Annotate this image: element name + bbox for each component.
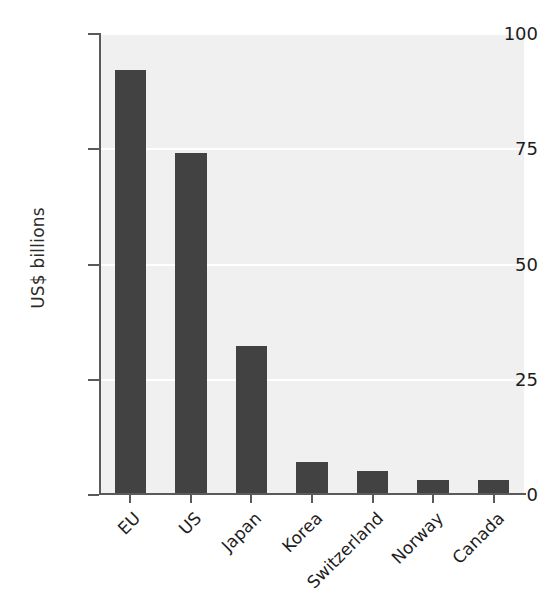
x-tick-mark (311, 495, 313, 503)
x-tick-mark (129, 495, 131, 503)
y-tick-label: 75 (458, 138, 538, 159)
y-axis-title: US$ billions (28, 158, 48, 358)
y-tick-label: 0 (458, 484, 538, 505)
y-tick-mark (88, 379, 99, 381)
bar-eu (115, 70, 146, 494)
x-tick-mark (493, 495, 495, 503)
bar-korea (296, 462, 327, 494)
y-tick-label: 50 (458, 253, 538, 274)
y-tick-mark (88, 264, 99, 266)
bar-japan (236, 346, 267, 494)
x-tick-mark (432, 495, 434, 503)
bar-us (175, 153, 206, 494)
bar-switzerland (357, 471, 388, 494)
bar-chart-figure: US$ billions 0255075100 EUUSJapanKoreaSw… (0, 0, 538, 601)
x-tick-mark (190, 495, 192, 503)
y-tick-mark (88, 33, 99, 35)
y-tick-mark (88, 148, 99, 150)
y-tick-label: 100 (458, 23, 538, 44)
y-tick-label: 25 (458, 368, 538, 389)
x-tick-mark (372, 495, 374, 503)
y-tick-mark (88, 494, 99, 496)
bar-norway (417, 480, 448, 494)
x-tick-mark (250, 495, 252, 503)
y-axis-spine (99, 33, 101, 495)
